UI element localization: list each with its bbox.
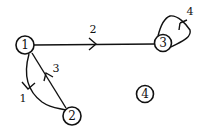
svg-text:2: 2 (68, 109, 76, 123)
edge-1-to-3: 2 (34, 23, 155, 51)
edge-2-to-1: 3 (32, 53, 66, 108)
graph-svg: 2 1 3 4 1 2 3 (0, 0, 202, 136)
edge-label: 4 (187, 5, 194, 18)
node-1: 1 (16, 36, 34, 54)
edge-label: 2 (90, 23, 97, 36)
svg-text:1: 1 (21, 38, 29, 52)
node-2: 2 (63, 107, 81, 125)
svg-text:3: 3 (159, 36, 167, 50)
svg-text:4: 4 (141, 87, 149, 101)
edge-label: 3 (53, 62, 60, 75)
node-3: 3 (155, 35, 172, 52)
graph-diagram: 2 1 3 4 1 2 3 (0, 0, 202, 136)
edge-label: 1 (20, 92, 27, 105)
node-4: 4 (137, 86, 154, 103)
